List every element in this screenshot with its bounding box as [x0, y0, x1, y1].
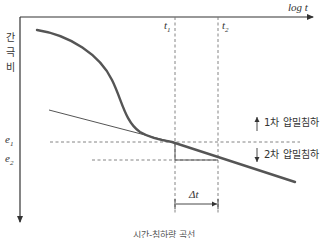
- primary-consolidation-label: 1차 압밀침하: [264, 118, 319, 128]
- e1-subscript: 1: [10, 140, 14, 148]
- y-axis-label-char: 간: [4, 30, 16, 45]
- t1-label: t1: [164, 20, 171, 34]
- figure-caption: 시간-침하량 곡선: [0, 228, 328, 238]
- delta-t-label: Δt: [189, 189, 199, 200]
- e1-label: e1: [5, 134, 13, 148]
- y-axis-label: 간 극 비: [4, 30, 16, 75]
- y-axis-label-char: 비: [4, 60, 16, 75]
- t2-label: t2: [222, 20, 229, 34]
- e2-label: e2: [5, 153, 13, 167]
- x-axis-label: log t: [288, 2, 308, 13]
- consolidation-curve: [37, 30, 295, 182]
- t2-subscript: 2: [225, 26, 229, 34]
- secondary-consolidation-label: 2차 압밀침하: [264, 150, 319, 160]
- y-axis-label-char: 극: [4, 45, 16, 60]
- t1-subscript: 1: [167, 26, 171, 34]
- e2-subscript: 2: [10, 159, 14, 167]
